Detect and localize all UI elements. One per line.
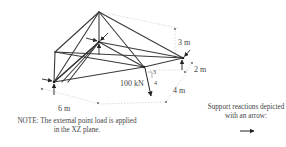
load-slope-rise: 3 — [153, 68, 156, 77]
support-note: Support reactions depicted with an arrow… — [196, 103, 286, 120]
load-slope-run: 4 — [154, 79, 157, 88]
width-dimension-label: 6 m — [58, 104, 70, 113]
load-note-line2: in the XZ plane. — [6, 126, 148, 135]
support-note-line2: with an arrow: — [196, 112, 286, 121]
dimension-lines — [40, 12, 192, 104]
load-note: NOTE: The external point load is applied… — [6, 117, 148, 134]
load-value-label: 100 kN — [120, 79, 144, 88]
truss-members — [54, 12, 183, 82]
support-reaction-arrows — [42, 33, 190, 95]
height-dimension-label: 3 m — [178, 38, 190, 47]
load-slope-indicator — [148, 72, 152, 78]
support-note-line1: Support reactions depicted — [196, 103, 286, 112]
depth-dimension-label: 4 m — [173, 86, 185, 95]
load-note-line1: NOTE: The external point load is applied — [6, 117, 148, 126]
depth-offset-dimension-label: 2 m — [194, 65, 206, 74]
